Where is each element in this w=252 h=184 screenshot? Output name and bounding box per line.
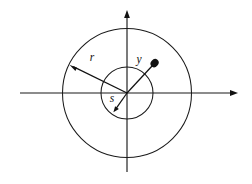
outer-radius-label: r [90,51,95,63]
outer-radius-vector-group: r [69,51,127,93]
outer-radius-arrowhead-icon [69,65,77,71]
outer-radius-vector-line [73,67,127,93]
vertical-axis-arrowhead-icon [124,10,130,18]
horizontal-axis-arrowhead-icon [230,90,238,96]
annulus-diagram: r s y [0,0,252,184]
inner-radius-vector-line [116,93,127,109]
inner-radius-vector-group: s [110,92,127,113]
inner-radius-arrowhead-icon [113,106,119,112]
point-vector-label: y [135,53,142,66]
inner-radius-label: s [110,92,115,104]
figure-canvas: r s y [0,0,252,184]
